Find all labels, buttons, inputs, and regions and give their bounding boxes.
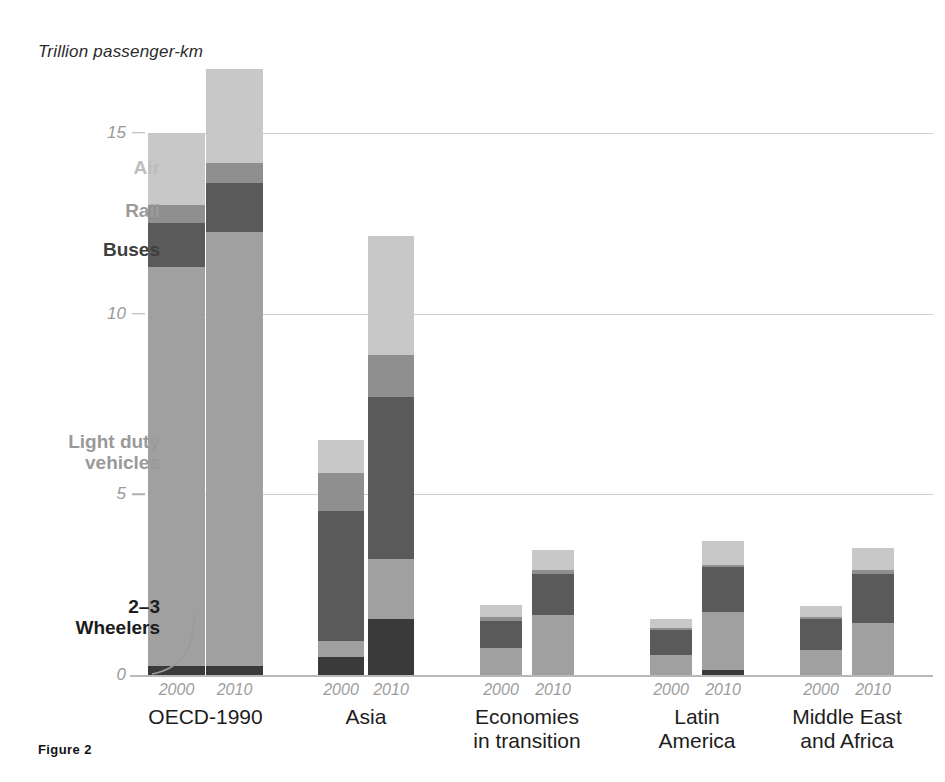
ytick-label-15: 15	[90, 123, 126, 143]
bar-segment-buses	[368, 397, 414, 560]
year-label-oecd-1990-2010: 2010	[200, 681, 269, 699]
bar-segment-light-duty-vehicles	[532, 615, 574, 675]
bar-middle-east-and-africa-2010[interactable]	[852, 0, 894, 675]
ytick-label-0: 0	[90, 665, 126, 685]
bar-segment-air	[318, 440, 364, 473]
year-label-middle-east-and-africa-2000: 2000	[794, 681, 848, 699]
bar-segment-rail	[800, 617, 842, 619]
bar-segment-buses	[206, 183, 263, 232]
bar-asia-2000[interactable]	[318, 0, 364, 675]
figure-caption: Figure 2	[38, 742, 92, 757]
bar-segment-rail	[852, 570, 894, 574]
bar-segment-buses	[318, 511, 364, 641]
bar-segment-buses	[852, 574, 894, 623]
bar-latin-america-2010[interactable]	[702, 0, 744, 675]
ytick-label-10: 10	[90, 304, 126, 324]
bar-segment-air	[852, 548, 894, 570]
bar-segment-light-duty-vehicles	[650, 655, 692, 675]
ytick-label-5: 5	[90, 484, 126, 504]
bar-segment-air	[480, 605, 522, 618]
legend-label-wheelers: 2–3 Wheelers	[12, 597, 160, 639]
ytick-dash-10	[132, 313, 145, 315]
bar-segment-air	[532, 550, 574, 570]
bar-segment-buses	[532, 574, 574, 616]
x-axis-baseline	[130, 675, 933, 677]
bar-asia-2010[interactable]	[368, 0, 414, 675]
bar-segment-air	[702, 541, 744, 564]
bar-segment-light-duty-vehicles	[480, 648, 522, 675]
bar-segment-air	[650, 619, 692, 628]
bar-middle-east-and-africa-2000[interactable]	[800, 0, 842, 675]
year-label-economies-in-transition-2000: 2000	[474, 681, 528, 699]
bar-segment-rail	[318, 473, 364, 511]
bar-segment-light-duty-vehicles	[368, 559, 414, 619]
ytick-dash-5	[132, 494, 145, 496]
bar-segment-rail	[206, 163, 263, 183]
year-label-middle-east-and-africa-2010: 2010	[846, 681, 900, 699]
legend-label-air: Air	[20, 158, 160, 179]
bar-segment-buses	[650, 630, 692, 655]
bar-latin-america-2000[interactable]	[650, 0, 692, 675]
legend-label-buses: Buses	[20, 240, 160, 261]
bar-segment-buses	[480, 621, 522, 648]
legend-label-rail: Rail	[20, 201, 160, 222]
bar-segment-rail	[650, 628, 692, 630]
bar-segment-light-duty-vehicles	[702, 612, 744, 670]
bar-segment-rail	[702, 565, 744, 567]
bar-economies-in-transition-2000[interactable]	[480, 0, 522, 675]
bar-segment-buses	[702, 567, 744, 612]
bar-segment-light-duty-vehicles	[800, 650, 842, 675]
group-label-middle-east-and-africa: Middle East and Africa	[747, 705, 945, 752]
plot-area: 05101520002010OECD-199020002010Asia20002…	[0, 0, 945, 782]
bar-segment-light-duty-vehicles	[318, 641, 364, 657]
year-label-latin-america-2010: 2010	[696, 681, 750, 699]
year-label-latin-america-2000: 2000	[644, 681, 698, 699]
bar-segment-buses	[800, 619, 842, 650]
year-label-economies-in-transition-2010: 2010	[526, 681, 580, 699]
bar-segment-2-3-wheelers	[318, 657, 364, 675]
bar-segment-2-3-wheelers	[148, 666, 205, 675]
bar-segment-air	[368, 236, 414, 355]
bar-segment-rail	[480, 617, 522, 621]
bar-oecd-1990-2010[interactable]	[206, 0, 263, 675]
bar-segment-air	[206, 69, 263, 163]
bar-segment-2-3-wheelers	[206, 666, 263, 675]
bar-segment-rail	[368, 355, 414, 397]
bar-economies-in-transition-2010[interactable]	[532, 0, 574, 675]
bar-segment-air	[800, 606, 842, 617]
bar-segment-light-duty-vehicles	[852, 623, 894, 675]
bar-oecd-1990-2000[interactable]	[148, 0, 205, 675]
year-label-asia-2010: 2010	[362, 681, 420, 699]
bar-segment-light-duty-vehicles	[206, 232, 263, 666]
ytick-dash-15	[132, 132, 145, 134]
bar-segment-rail	[532, 570, 574, 574]
bar-segment-2-3-wheelers	[368, 619, 414, 675]
legend-label-ldv: Light duty vehicles	[12, 432, 160, 474]
figure-chart-root: Trillion passenger-km 05101520002010OECD…	[0, 0, 945, 782]
bar-segment-2-3-wheelers	[702, 670, 744, 675]
